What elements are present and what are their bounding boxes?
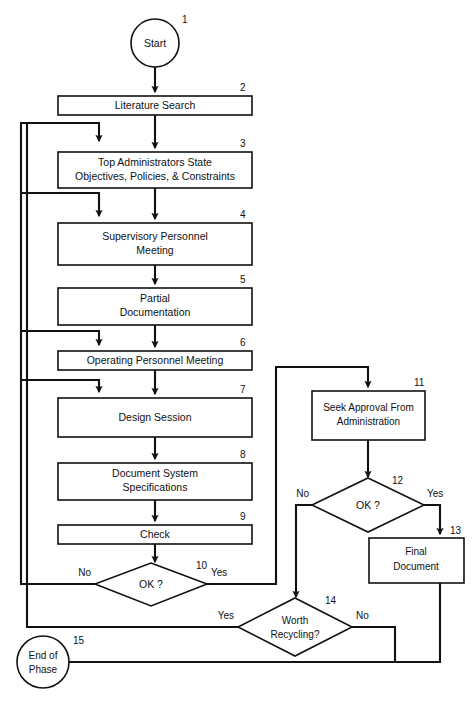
node-14-shape — [238, 598, 352, 656]
edge-bus-to-4 — [21, 193, 99, 216]
node-12-label: OK ? — [356, 499, 380, 511]
node-4-number: 4 — [240, 209, 246, 220]
node-4-label-line2: Meeting — [136, 244, 174, 256]
node-2-number: 2 — [240, 82, 246, 93]
node-6-label: Operating Personnel Meeting — [87, 354, 224, 366]
node-13-label-line1: Final — [405, 546, 427, 557]
node-8-label-line2: Specifications — [123, 481, 188, 493]
node-10-branch-yes: Yes — [211, 567, 227, 578]
node-13-number: 13 — [450, 525, 462, 536]
node-11-label-line2: Administration — [337, 416, 400, 427]
node-12-number: 12 — [392, 475, 404, 486]
edge-14-no-to-end — [352, 627, 395, 662]
node-15-shape — [17, 636, 69, 688]
node-15-label-line2: Phase — [29, 664, 58, 675]
node-ok-decision-12[interactable]: OK ? 12 No Yes — [296, 475, 443, 532]
node-12-branch-no: No — [296, 488, 309, 499]
node-start[interactable]: Start 1 — [131, 14, 188, 67]
node-6-number: 6 — [240, 337, 246, 348]
node-14-number: 14 — [325, 595, 337, 606]
node-9-number: 9 — [240, 511, 246, 522]
node-8-number: 8 — [240, 449, 246, 460]
node-13-label-line2: Document — [393, 561, 439, 572]
edge-14-yes-to-bus — [27, 123, 238, 627]
node-3-number: 3 — [240, 138, 246, 149]
node-14-branch-no: No — [356, 610, 369, 621]
edge-12-yes-to-13 — [424, 505, 440, 534]
node-15-label-line1: End of — [29, 650, 58, 661]
edge-12-no-to-14 — [296, 505, 312, 597]
flowchart-svg: Start 1 Literature Search 2 Top Administ… — [0, 0, 472, 703]
node-start-label: Start — [144, 37, 166, 49]
node-2-label: Literature Search — [115, 99, 196, 111]
node-10-number: 10 — [196, 560, 208, 571]
node-12-branch-yes: Yes — [427, 488, 443, 499]
node-5-number: 5 — [240, 274, 246, 285]
node-15-number: 15 — [73, 635, 85, 646]
node-worth-recycling-decision[interactable]: Worth Recycling? 14 Yes No — [218, 595, 370, 656]
node-final-document[interactable]: Final Document 13 — [369, 525, 464, 583]
node-10-branch-no: No — [78, 567, 91, 578]
node-11-number: 11 — [414, 377, 425, 388]
node-10-label: OK ? — [139, 578, 163, 590]
node-14-label-line2: Recycling? — [271, 629, 320, 640]
node-8-label-line1: Document System — [112, 467, 198, 479]
node-3-label-line2: Objectives, Policies, & Constraints — [75, 170, 235, 182]
node-ok-decision-10[interactable]: OK ? 10 No Yes — [78, 560, 227, 606]
node-5-label-line1: Partial — [140, 292, 170, 304]
flowchart-canvas: Start 1 Literature Search 2 Top Administ… — [0, 0, 472, 703]
node-11-label-line1: Seek Approval From — [323, 402, 414, 413]
node-4-label-line1: Supervisory Personnel — [102, 230, 208, 242]
node-14-branch-yes: Yes — [218, 610, 234, 621]
edge-bus-to-7 — [21, 380, 99, 392]
node-5-label-line2: Documentation — [120, 306, 191, 318]
node-7-number: 7 — [240, 384, 246, 395]
node-7-label: Design Session — [119, 411, 192, 423]
node-3-label-line1: Top Administrators State — [98, 156, 212, 168]
node-9-label: Check — [140, 528, 171, 540]
edge-bus-to-6 — [21, 331, 99, 345]
node-14-label-line1: Worth — [282, 615, 309, 626]
node-start-number: 1 — [182, 14, 188, 25]
